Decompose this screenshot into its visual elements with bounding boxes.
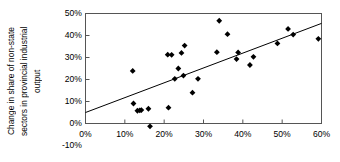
data-point — [181, 73, 187, 79]
y-axis-ticks — [86, 14, 90, 124]
data-point — [146, 106, 152, 112]
data-point — [190, 90, 196, 96]
plot-area — [0, 0, 340, 162]
axis-frame — [86, 14, 322, 124]
data-point — [195, 76, 201, 82]
scatter-chart: Change in share of non-state sectors in … — [0, 0, 340, 162]
data-point — [166, 105, 172, 111]
data-point — [179, 50, 185, 56]
data-point — [234, 56, 240, 62]
data-point — [285, 26, 291, 32]
data-point — [315, 36, 321, 42]
data-point — [247, 62, 253, 68]
data-point — [182, 43, 188, 49]
data-point — [275, 41, 281, 47]
data-point — [169, 52, 175, 58]
data-point — [147, 123, 153, 129]
data-point — [175, 66, 181, 72]
trend-line — [86, 23, 322, 112]
data-point — [290, 32, 296, 38]
data-point — [172, 76, 178, 82]
data-point — [225, 31, 231, 37]
data-point — [216, 18, 222, 24]
data-point — [131, 101, 137, 107]
x-axis-ticks — [86, 120, 322, 124]
data-point-series — [130, 18, 321, 129]
data-point — [214, 49, 220, 55]
data-point — [251, 54, 257, 60]
data-point — [130, 68, 136, 74]
